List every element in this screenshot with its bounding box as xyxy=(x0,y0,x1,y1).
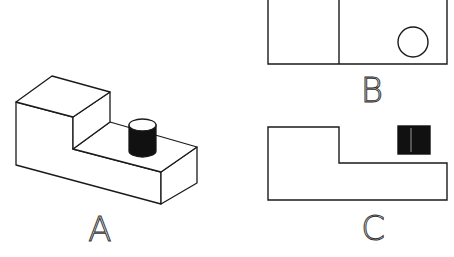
circle-hole xyxy=(398,27,428,57)
filled-square xyxy=(398,126,430,154)
label-c: C xyxy=(361,208,385,248)
front-view-c xyxy=(268,126,447,200)
label-a: A xyxy=(88,209,111,249)
isometric-view-a xyxy=(16,76,197,204)
cylinder xyxy=(129,119,156,157)
label-b: B xyxy=(361,70,383,110)
top-view-b xyxy=(268,0,447,64)
three-view-diagram: A B C xyxy=(0,0,454,257)
